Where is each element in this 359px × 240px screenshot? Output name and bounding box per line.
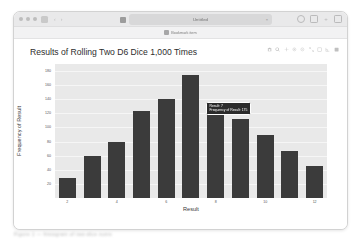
zoom-window-icon[interactable] [33,17,37,21]
bar[interactable] [84,156,101,198]
plotly-modebar[interactable] [267,47,339,52]
minimize-window-icon[interactable] [26,17,30,21]
new-tab-icon[interactable] [310,15,318,23]
bar[interactable] [133,111,150,198]
bar[interactable] [158,99,175,198]
tab-active[interactable]: Untitled × [129,14,272,25]
y-axis-tick-label: 60 [47,154,51,158]
bar-series[interactable] [55,64,327,198]
x-axis-tick-label: 2 [66,200,68,204]
tab-title: Untitled [193,17,208,22]
hover-tooltip: Result: 7 Frequency of Result: 175 [206,102,251,115]
y-axis-tick-label: 180 [45,69,51,73]
zoom-icon[interactable] [275,47,280,52]
autoscale-icon[interactable] [309,47,314,52]
bar[interactable] [232,119,249,198]
tooltip-line-2: Frequency of Result: 175 [210,108,248,112]
y-axis-tick-label: 120 [45,111,51,115]
x-axis-title: Result [55,206,327,212]
plot-area[interactable] [55,64,327,198]
figure-caption: Figure 1 — histogram of two-dice sums [14,231,264,237]
share-icon[interactable] [297,15,305,23]
x-axis-tick-label: 6 [165,200,167,204]
back-icon[interactable]: ‹ [54,16,56,23]
tab-strip[interactable]: Untitled × [120,14,272,25]
bar[interactable] [306,166,323,198]
window-traffic-lights[interactable] [19,17,37,21]
pan-icon[interactable] [284,47,289,52]
bookmark-favicon-icon [164,30,169,35]
bar[interactable] [281,151,298,198]
bar[interactable] [182,75,199,198]
browser-titlebar: ‹ › Untitled × + [14,12,347,27]
reset-axes-icon[interactable] [317,47,322,52]
bar[interactable] [257,135,274,198]
navigation-buttons[interactable]: ‹ › [54,16,62,23]
browser-window: ‹ › Untitled × + Bookmark item [13,11,348,230]
bar[interactable] [59,178,76,198]
bookmark-item-label[interactable]: Bookmark item [171,31,196,35]
bookmark-bar[interactable]: Bookmark item [14,27,347,39]
spike-lines-icon[interactable] [325,47,330,52]
y-axis: Frequency of Result 20406080100120140160… [14,64,55,198]
bar[interactable] [108,142,125,198]
x-axis-tick-label: 8 [215,200,217,204]
forward-icon[interactable]: › [61,16,63,23]
y-axis-tick-label: 40 [47,168,51,172]
screenshot-root: ‹ › Untitled × + Bookmark item [0,0,359,240]
sidebar-icon[interactable] [41,16,48,23]
x-axis-tick-label: 12 [313,200,317,204]
x-axis-tick-label: 10 [263,200,267,204]
y-axis-tick-label: 80 [47,140,51,144]
y-axis-tick-label: 160 [45,83,51,87]
plus-icon[interactable]: + [323,16,329,22]
y-axis-tick-label: 140 [45,97,51,101]
chart-title: Results of Rolling Two D6 Dice 1,000 Tim… [30,47,197,57]
browser-toolbar-right[interactable]: + [297,15,342,23]
page-content: Results of Rolling Two D6 Dice 1,000 Tim… [14,39,347,230]
zoom-in-icon[interactable] [292,47,297,52]
tab-favicon-icon [120,17,126,23]
plotly-logo-icon[interactable] [334,47,339,52]
y-axis-tick-label: 100 [45,125,51,129]
close-window-icon[interactable] [19,17,23,21]
tabs-icon[interactable] [334,15,342,23]
y-axis-tick-label: 20 [47,182,51,186]
x-axis-tick-label: 4 [116,200,118,204]
bar[interactable] [207,106,224,198]
y-axis-title: Frequency of Result [16,106,22,156]
zoom-out-icon[interactable] [300,47,305,52]
camera-icon[interactable] [267,47,272,52]
tab-close-icon[interactable]: × [266,18,268,22]
